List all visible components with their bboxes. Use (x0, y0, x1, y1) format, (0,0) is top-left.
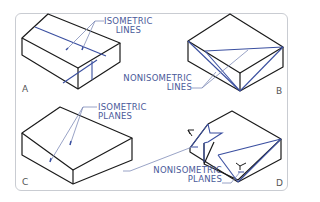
panel-letter-a: A (22, 84, 28, 94)
panel-letter-d: D (276, 178, 283, 188)
nonisometric-lines-b (188, 41, 283, 91)
label-line: PLANES (128, 175, 222, 184)
box-b (188, 14, 283, 91)
label-line: PLANES (98, 112, 147, 121)
panel-letter-c: C (22, 177, 28, 187)
label-isometric-lines: ISOMETRIC LINES (104, 17, 153, 35)
label-nonisometric-planes: NONISOMETRIC PLANES (128, 166, 222, 184)
panel-letter-b: B (276, 86, 282, 96)
isometric-lines-a (35, 27, 106, 83)
leader-lines-c (50, 107, 97, 162)
leader-lines-a (66, 21, 104, 50)
label-line: LINES (104, 26, 153, 35)
label-isometric-planes: ISOMETRIC PLANES (98, 103, 147, 121)
label-line: LINES (120, 83, 192, 92)
label-nonisometric-lines: NONISOMETRIC LINES (120, 74, 192, 92)
